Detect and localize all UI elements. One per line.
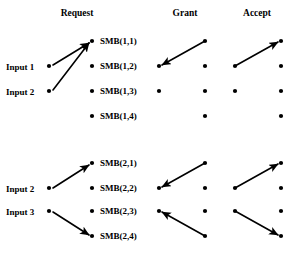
accept-dot-accept-2-r3c2	[279, 209, 283, 213]
arrow-arrow-accept-1	[235, 42, 278, 66]
grant-dot-grant-1-r2c1	[157, 64, 161, 68]
input-dot-input-3	[47, 209, 51, 213]
grant-dot-grant-2-r2c1	[157, 186, 161, 190]
arrow-arrow-grant-2b	[162, 212, 205, 236]
input-label-input-2: Input 2	[6, 87, 35, 97]
grant-dot-grant-2-r1c2	[203, 161, 207, 165]
input-dot-input-1	[47, 64, 51, 68]
diagram-canvas: RequestGrantAccept Input 1Input 2SMB(1,1…	[0, 0, 302, 260]
accept-dot-accept-1-r4c2	[279, 114, 283, 118]
accept-dot-accept-1-r2c1	[233, 64, 237, 68]
arrow-arrow-in3-smb24	[53, 212, 89, 235]
input-label-input-2b: Input 2	[6, 184, 35, 194]
grant-dot-grant-1-r1c2	[203, 39, 207, 43]
column-header-request: Request	[61, 8, 95, 18]
input-dot-input-2b	[47, 186, 51, 190]
accept-dot-accept-2-r1c2	[279, 161, 283, 165]
grant-dot-grant-1-r4c2	[203, 114, 207, 118]
request-label-smb-2-2: SMB(2,2)	[100, 183, 137, 193]
accept-dot-accept-2-r4c2	[279, 234, 283, 238]
request-label-smb-1-4: SMB(1,4)	[100, 111, 137, 121]
request-dot-smb-1-2	[90, 64, 94, 68]
accept-dot-accept-1-r3c2	[279, 89, 283, 93]
request-label-smb-1-1: SMB(1,1)	[100, 36, 137, 46]
request-label-smb-2-1: SMB(2,1)	[100, 158, 137, 168]
request-dot-smb-1-3	[90, 89, 94, 93]
arrow-arrow-in2-smb11	[53, 43, 89, 90]
grant-dot-grant-1-r2c2	[203, 64, 207, 68]
arrow-arrow-accept-2b	[235, 211, 278, 235]
request-dot-smb-2-2	[90, 186, 94, 190]
request-dot-smb-1-4	[90, 114, 94, 118]
arrow-arrow-grant-2a	[162, 163, 205, 187]
request-dot-smb-1-1	[90, 39, 94, 43]
accept-dot-accept-1-r3c1	[233, 89, 237, 93]
arrow-arrow-grant-1	[162, 41, 205, 65]
column-header-grant: Grant	[173, 8, 199, 18]
grant-dot-grant-1-r3c2	[203, 89, 207, 93]
input-label-input-1: Input 1	[6, 62, 35, 72]
input-dot-input-2	[47, 89, 51, 93]
request-dot-smb-2-4	[90, 234, 94, 238]
node-dot-layer	[47, 39, 283, 238]
input-label-input-3: Input 3	[6, 207, 35, 217]
arrow-arrow-accept-2a	[235, 164, 278, 188]
grant-dot-grant-1-r3c1	[157, 89, 161, 93]
accept-dot-accept-2-r3c1	[233, 209, 237, 213]
request-label-smb-2-4: SMB(2,4)	[100, 231, 137, 241]
grant-dot-grant-2-r2c2	[203, 186, 207, 190]
request-dot-smb-2-3	[90, 209, 94, 213]
request-label-smb-1-3: SMB(1,3)	[100, 86, 137, 96]
arrow-arrow-in2b-smb21	[53, 165, 89, 188]
request-label-smb-1-2: SMB(1,2)	[100, 61, 137, 71]
grant-dot-grant-2-r3c1	[157, 209, 161, 213]
grant-dot-grant-2-r4c2	[203, 234, 207, 238]
accept-dot-accept-1-r2c2	[279, 64, 283, 68]
arrow-layer	[53, 41, 278, 236]
grant-dot-grant-2-r3c2	[203, 209, 207, 213]
column-headers: RequestGrantAccept	[61, 8, 272, 18]
accept-dot-accept-1-r1c2	[279, 39, 283, 43]
arrow-arrow-in1-smb11	[53, 43, 89, 65]
switch-arbitration-diagram: RequestGrantAccept Input 1Input 2SMB(1,1…	[0, 0, 302, 260]
accept-dot-accept-2-r2c1	[233, 186, 237, 190]
request-dot-smb-2-1	[90, 161, 94, 165]
accept-dot-accept-2-r2c2	[279, 186, 283, 190]
column-header-accept: Accept	[243, 8, 272, 18]
request-label-smb-2-3: SMB(2,3)	[100, 206, 137, 216]
